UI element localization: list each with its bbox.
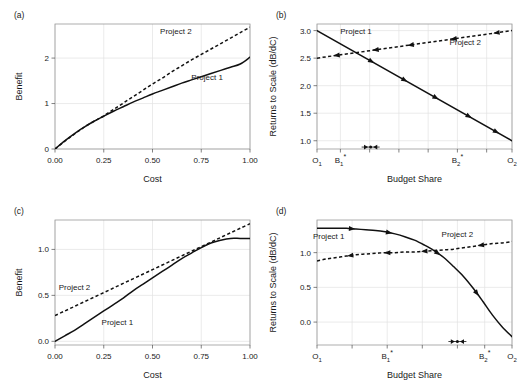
y-axis-title-d: Returns to Scale (dB/dC) — [268, 232, 278, 332]
series-label-project-2-b: Project 2 — [449, 38, 481, 47]
panel-label-c: (c) — [14, 206, 24, 216]
series-label-project-1-c: Project 1 — [102, 318, 134, 327]
ytick-label: 0.5 — [300, 283, 312, 292]
x-axis-title-b: Budget Share — [387, 174, 442, 184]
panel-label-a: (a) — [14, 10, 25, 20]
xtick-label: 0.75 — [193, 156, 209, 165]
xtick-label: 0.25 — [96, 352, 112, 361]
direction-arrow-left — [421, 249, 428, 254]
ytick-label: 1.0 — [38, 245, 50, 254]
y-axis-title-c: Benefit — [14, 268, 24, 297]
ytick-label: 0.0 — [300, 318, 312, 327]
axis-ticks-b: O1B1*B2*O21.01.52.02.53.0 — [300, 27, 518, 167]
x-axis-title-d: Budget Share — [387, 370, 442, 380]
figure-container: (a)0.000.250.500.751.00012CostBenefitPro… — [0, 0, 524, 392]
equilibrium-point — [369, 146, 372, 149]
x-axis-title-a: Cost — [143, 174, 162, 184]
ytick-label: 2.5 — [300, 54, 312, 63]
plot-frame-d — [317, 220, 512, 345]
gridlines-d — [317, 220, 512, 345]
ytick-label: 0 — [45, 145, 50, 154]
ytick-label: 0.0 — [38, 337, 50, 346]
xtick-label: B2* — [452, 153, 464, 166]
xtick-label: 0.25 — [96, 156, 112, 165]
xtick-label: 1.00 — [242, 352, 258, 361]
series-group-d — [317, 226, 512, 337]
ytick-label: 1.0 — [300, 137, 312, 146]
y-axis-title-a: Benefit — [14, 72, 24, 101]
panel-a: (a)0.000.250.500.751.00012CostBenefitPro… — [0, 0, 262, 196]
xtick-label: 0.75 — [193, 352, 209, 361]
ytick-label: 1 — [45, 99, 50, 108]
equilibrium-point — [456, 340, 459, 343]
xtick-label: 1.00 — [242, 156, 258, 165]
ytick-label: 1.0 — [300, 249, 312, 258]
xtick-label: B2* — [479, 349, 491, 362]
ytick-label: 2.0 — [300, 82, 312, 91]
direction-arrow-right — [465, 113, 473, 121]
xtick-label: O1 — [312, 352, 322, 363]
plot-a: (a)0.000.250.500.751.00012CostBenefitPro… — [0, 0, 262, 196]
series-label-project-1-b: Project 1 — [340, 27, 372, 36]
series-group-b — [317, 30, 512, 141]
panel-b: (b)O1B1*B2*O21.01.52.02.53.0Budget Share… — [262, 0, 524, 196]
plot-b: (b)O1B1*B2*O21.01.52.02.53.0Budget Share… — [262, 0, 524, 196]
y-axis-title-b: Returns to Scale (dB/dC) — [268, 36, 278, 136]
panel-d: (d)O1B1*B2*O20.00.51.0Budget ShareReturn… — [262, 196, 524, 392]
direction-arrow-left — [477, 242, 484, 248]
xtick-label: B1* — [381, 349, 393, 362]
axis-ticks-a: 0.000.250.500.751.00012 — [45, 54, 259, 165]
equilibrium-arrow-right — [451, 339, 455, 344]
series-label-project-2-d: Project 2 — [442, 230, 474, 239]
series-label-project-2-c: Project 2 — [59, 283, 91, 292]
ytick-label: 0.5 — [38, 291, 50, 300]
plot-d: (d)O1B1*B2*O20.00.51.0Budget ShareReturn… — [262, 196, 524, 392]
direction-arrow-right — [432, 94, 440, 102]
axis-ticks-c: 0.000.250.500.751.000.00.51.0 — [38, 245, 258, 361]
ytick-label: 2 — [45, 54, 50, 63]
series-label-project-1-d: Project 1 — [313, 232, 345, 241]
ytick-label: 3.0 — [300, 27, 312, 36]
xtick-label: O2 — [507, 352, 517, 363]
xtick-label: O2 — [507, 156, 517, 167]
xtick-label: 0.00 — [47, 156, 63, 165]
direction-arrow-right — [492, 128, 500, 136]
xtick-label: B1* — [335, 153, 347, 166]
xtick-label: O1 — [312, 156, 322, 167]
direction-arrow-right — [401, 76, 409, 84]
panel-label-b: (b) — [276, 10, 287, 20]
direction-arrow-right — [368, 58, 376, 66]
ytick-label: 1.5 — [300, 109, 312, 118]
panel-c: (c)0.000.250.500.751.000.00.51.0CostBene… — [0, 196, 262, 392]
plot-c: (c)0.000.250.500.751.000.00.51.0CostBene… — [0, 196, 262, 392]
xtick-label: 0.50 — [145, 156, 161, 165]
panel-label-d: (d) — [276, 206, 287, 216]
series-label-project-2-a: Project 2 — [160, 27, 192, 36]
equilibrium-arrow-left — [460, 339, 464, 344]
xtick-label: 0.50 — [145, 352, 161, 361]
x-axis-title-c: Cost — [143, 370, 162, 380]
xtick-label: 0.00 — [47, 352, 63, 361]
series-label-project-1-a: Project 1 — [191, 73, 223, 82]
